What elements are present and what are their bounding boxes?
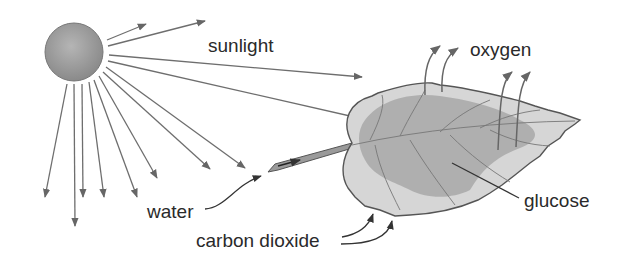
label-sunlight: sunlight (208, 36, 274, 55)
label-water: water (147, 202, 193, 221)
photosynthesis-diagram: sunlight oxygen water glucose carbon dio… (0, 0, 629, 266)
water-arrow (205, 176, 261, 209)
label-carbon-dioxide: carbon dioxide (196, 231, 320, 250)
label-oxygen: oxygen (470, 40, 531, 59)
carbon-dioxide-arrows (341, 214, 392, 244)
label-glucose: glucose (524, 191, 590, 210)
diagram-canvas (0, 0, 629, 266)
sun-icon (45, 23, 103, 81)
